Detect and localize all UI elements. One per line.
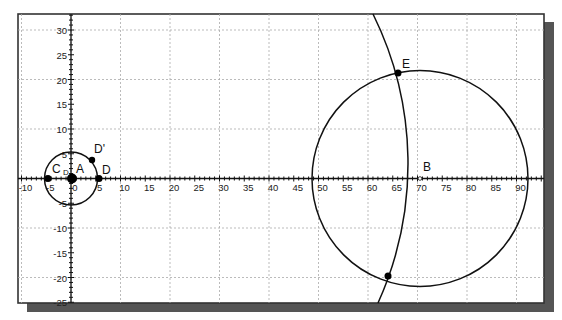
y-tick-label: 10 xyxy=(56,124,67,135)
point-B[interactable] xyxy=(418,177,422,181)
x-tick-label: 20 xyxy=(169,182,180,193)
geometry-canvas[interactable]: -10-505101520253035404550556065707580859… xyxy=(0,0,562,320)
y-tick-label: 5 xyxy=(62,149,67,160)
x-tick-label: 80 xyxy=(466,182,477,193)
y-tick-label: 15 xyxy=(56,99,67,110)
x-tick-label: 70 xyxy=(416,182,427,193)
label-D: D xyxy=(102,163,111,177)
x-tick-label: 50 xyxy=(317,182,328,193)
point-D-prime[interactable] xyxy=(89,157,95,163)
point-C[interactable] xyxy=(45,175,52,182)
y-tick-label: -20 xyxy=(53,273,67,284)
x-tick-label: 40 xyxy=(268,182,279,193)
y-tick-label: -15 xyxy=(53,248,67,259)
x-tick-label: 75 xyxy=(441,182,452,193)
x-tick-label: 55 xyxy=(342,182,353,193)
y-tick-label: -25 xyxy=(53,297,67,308)
y-tick-label: 20 xyxy=(56,75,67,86)
label-C: C xyxy=(52,162,61,176)
label-origin-D: D xyxy=(63,168,69,177)
label-B: B xyxy=(423,160,431,174)
y-tick-label: 25 xyxy=(56,50,67,61)
label-D-prime: D' xyxy=(94,142,105,156)
x-tick-label: 15 xyxy=(144,182,155,193)
x-tick-label: 60 xyxy=(367,182,378,193)
x-tick-label: 25 xyxy=(193,182,204,193)
graphics-view[interactable] xyxy=(18,14,544,303)
x-tick-label: -10 xyxy=(19,182,33,193)
x-tick-label: 30 xyxy=(218,182,229,193)
x-tick-label: 5 xyxy=(97,182,102,193)
point-E[interactable] xyxy=(395,70,402,77)
label-A: A xyxy=(76,162,84,176)
x-tick-label: 90 xyxy=(515,182,526,193)
x-tick-label: 35 xyxy=(243,182,254,193)
y-tick-label: -10 xyxy=(53,223,67,234)
x-tick-label: 10 xyxy=(119,182,130,193)
x-tick-label: 85 xyxy=(490,182,501,193)
point-lower-intersection[interactable] xyxy=(385,273,392,280)
y-tick-label: 30 xyxy=(56,25,67,36)
label-E: E xyxy=(402,57,410,71)
x-tick-label: 65 xyxy=(391,182,402,193)
x-tick-label: 45 xyxy=(292,182,303,193)
